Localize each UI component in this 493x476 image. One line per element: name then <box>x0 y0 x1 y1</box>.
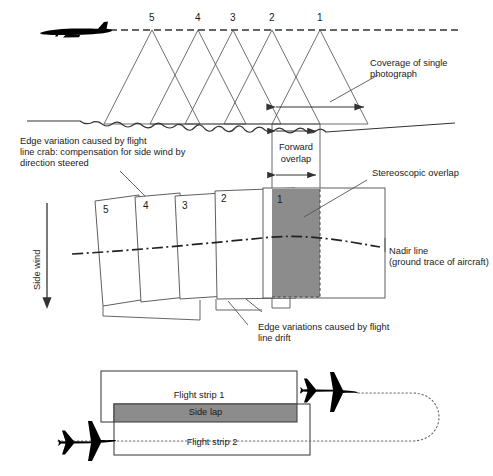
coverage-of-single-photograph-label: Coverage of single photograph <box>370 58 448 80</box>
edge-variation-crab-label: Edge variation caused by flight line cra… <box>20 136 185 170</box>
coverage-triangle-1 <box>272 30 368 124</box>
frame-edge-bracket-2 <box>272 298 290 308</box>
flight-strip-2-label: Flight strip 2 <box>114 437 310 447</box>
coverage-triangle-5 <box>104 30 200 124</box>
stereoscopic-overlap-shade <box>272 189 320 297</box>
side-lap-label: Side lap <box>114 407 297 417</box>
photo-frame-number-2: 2 <box>221 193 227 204</box>
aircraft-side-icon <box>40 21 112 37</box>
photo-coverage-triangles <box>104 30 368 124</box>
photo-number-5-top: 5 <box>149 12 155 23</box>
edge-variations-drift-label: Edge variations caused by flight line dr… <box>258 322 389 344</box>
nadir-line-label: Nadir line (ground trace of aircraft) <box>389 246 489 268</box>
photo-frame-number-5: 5 <box>103 204 109 215</box>
coverage-triangle-3 <box>185 30 281 124</box>
photo-frame-number-1: 1 <box>277 194 283 205</box>
side-wind-label: Side wind <box>32 250 42 290</box>
photo-number-1-top: 1 <box>317 12 323 23</box>
flight-strip-1-label: Flight strip 1 <box>101 390 297 400</box>
frame-edge-bracket <box>216 299 262 310</box>
photo-number-3-top: 3 <box>230 12 236 23</box>
drift-callout-leader <box>228 301 248 325</box>
photo-frame-number-3: 3 <box>182 200 188 211</box>
photo-number-2-top: 2 <box>269 12 275 23</box>
crab-callout-leader <box>120 171 148 199</box>
photo-number-4-top: 4 <box>195 12 201 23</box>
forward-overlap-label: Forward overlap <box>272 142 320 165</box>
stereoscopic-overlap-label: Stereoscopic overlap <box>372 168 459 179</box>
terrain-line <box>27 121 455 133</box>
photogrammetry-diagram: 5 4 3 2 1 Coverage of single photograph … <box>0 0 493 476</box>
photo-frame-number-4: 4 <box>143 200 149 211</box>
